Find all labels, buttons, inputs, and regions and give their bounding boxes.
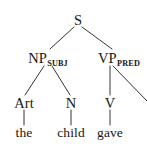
node-vp-pred: VPPRED xyxy=(98,51,140,66)
terminal-the-label: the xyxy=(16,125,33,140)
node-n-label: N xyxy=(66,95,77,111)
terminal-gave-label: gave xyxy=(97,125,123,140)
node-np-subscript: SUBJ xyxy=(47,58,68,67)
node-np-subj: NPSUBJ xyxy=(28,51,68,66)
edge-np-to-n xyxy=(52,66,70,95)
edge-vp-to-object xyxy=(113,66,147,101)
node-v-label: V xyxy=(105,95,116,111)
node-v: V xyxy=(105,96,116,111)
node-np-label: NP xyxy=(28,50,47,66)
terminal-gave: gave xyxy=(97,126,123,140)
node-vp-subscript: PRED xyxy=(117,58,140,67)
node-s-label: S xyxy=(74,12,82,28)
syntax-tree-diagram: S NPSUBJ VPPRED Art N V the child gave xyxy=(0,0,147,147)
edge-np-to-art xyxy=(25,66,44,95)
edge-s-to-vp xyxy=(82,27,112,49)
node-s: S xyxy=(74,13,82,28)
terminal-child: child xyxy=(57,126,85,140)
node-art-label: Art xyxy=(14,95,34,111)
node-n: N xyxy=(66,96,77,111)
node-art: Art xyxy=(14,96,34,111)
node-vp-label: VP xyxy=(98,50,117,66)
terminal-the: the xyxy=(16,126,33,140)
terminal-child-label: child xyxy=(57,125,85,140)
edge-s-to-np xyxy=(50,27,74,49)
